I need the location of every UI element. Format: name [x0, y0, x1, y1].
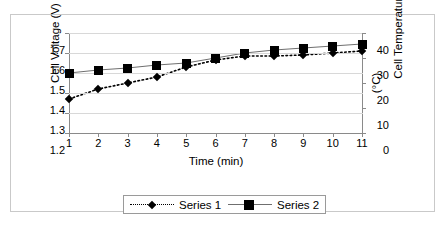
gridline-horizontal — [69, 93, 363, 94]
y-axis-left-tick-label: 1.4 — [35, 105, 65, 116]
x-axis-tick-label: 9 — [291, 137, 315, 149]
data-point-series-2 — [211, 54, 220, 63]
y-axis-left-title: Cell Voltage (V) — [49, 0, 61, 103]
legend-entry-series-2[interactable]: Series 2 — [228, 196, 319, 213]
top-edge-artifact — [8, 1, 128, 10]
data-point-series-2 — [328, 42, 337, 51]
x-axis-tick-label: 2 — [86, 137, 110, 149]
x-axis-tick — [69, 133, 70, 137]
x-axis-tick — [157, 133, 158, 137]
x-axis-tick-label: 11 — [350, 137, 374, 149]
y-axis-right-tick-label: 40 — [367, 45, 389, 56]
gridline-horizontal — [69, 73, 363, 74]
data-point-series-2 — [123, 64, 132, 73]
legend-label-series-2: Series 2 — [277, 199, 319, 211]
y-axis-right-tick-label: 10 — [367, 120, 389, 131]
x-axis-tick-label: 10 — [321, 137, 345, 149]
x-axis-tick — [216, 133, 217, 137]
y-axis-right-tick — [362, 58, 366, 59]
x-axis-tick-label: 3 — [116, 137, 140, 149]
y-axis-left-tick-label: 1.3 — [35, 125, 65, 136]
gridline-horizontal — [69, 113, 363, 114]
chart-legend: Series 1 Series 2 — [123, 195, 326, 214]
chart-figure: 1.71.61.51.41.31.2 403020100 12345678910… — [10, 14, 435, 212]
legend-label-series-1: Series 1 — [179, 199, 221, 211]
x-axis-tick-label: 6 — [204, 137, 228, 149]
x-axis-tick — [186, 133, 187, 137]
legend-marker-square-icon — [228, 199, 272, 210]
y-axis-right-title: Cell Temperature — [392, 0, 404, 100]
y-axis-right-tick — [362, 108, 366, 109]
data-point-series-2 — [240, 49, 249, 58]
y-axis-left-tick — [65, 113, 69, 114]
y-axis-left-tick — [65, 33, 69, 34]
x-axis-tick-label: 4 — [145, 137, 169, 149]
x-axis-tick-labels: 1234567891011 — [69, 137, 363, 151]
gridline-horizontal — [69, 33, 363, 34]
y-axis-right-unit: (°C) — [370, 63, 382, 103]
x-axis-title: Time (min) — [69, 155, 363, 167]
data-point-series-2 — [152, 61, 161, 70]
x-axis-tick — [333, 133, 334, 137]
x-axis-tick — [98, 133, 99, 137]
x-axis-tick-label: 8 — [262, 137, 286, 149]
plot-area — [69, 33, 363, 134]
x-axis-tick — [303, 133, 304, 137]
x-axis-tick — [362, 133, 363, 137]
data-point-series-2 — [270, 46, 279, 55]
data-point-series-2 — [182, 59, 191, 68]
x-axis-tick-label: 7 — [233, 137, 257, 149]
x-axis-tick-label: 1 — [57, 137, 81, 149]
legend-marker-diamond-icon — [130, 199, 174, 210]
data-point-series-2 — [358, 40, 367, 49]
y-axis-right-tick — [362, 33, 366, 34]
data-point-series-2 — [94, 66, 103, 75]
x-axis-tick-label: 5 — [174, 137, 198, 149]
x-axis-tick — [128, 133, 129, 137]
series-lines — [69, 33, 363, 134]
y-axis-left-tick — [65, 53, 69, 54]
data-point-series-2 — [65, 69, 74, 78]
legend-entry-series-1[interactable]: Series 1 — [130, 196, 221, 213]
y-axis-right-tick — [362, 83, 366, 84]
data-point-series-2 — [299, 44, 308, 53]
x-axis-tick — [274, 133, 275, 137]
x-axis-tick — [245, 133, 246, 137]
